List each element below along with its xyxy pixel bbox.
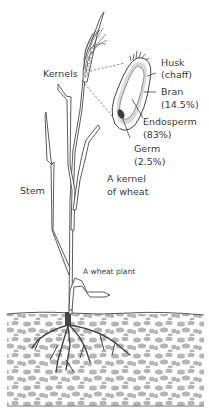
- caption-kernel-line1: A kernel: [107, 173, 146, 184]
- label-endosperm-percent: (83%): [143, 129, 172, 140]
- label-bran: Bran: [161, 86, 183, 97]
- caption-kernel-line2: of wheat: [107, 186, 148, 197]
- label-germ: Germ: [134, 143, 160, 154]
- label-bran-percent: (14.5%): [161, 99, 199, 110]
- label-husk: Husk: [161, 57, 185, 68]
- label-germ-percent: (2.5%): [134, 156, 166, 167]
- soil: [7, 312, 204, 406]
- label-husk-chaff: (chaff): [161, 69, 192, 80]
- label-endosperm: Endosperm: [143, 116, 197, 127]
- label-stem: Stem: [20, 185, 45, 196]
- label-kernels: Kernels: [43, 68, 78, 79]
- caption-wheat-plant: A wheat plant: [83, 266, 135, 277]
